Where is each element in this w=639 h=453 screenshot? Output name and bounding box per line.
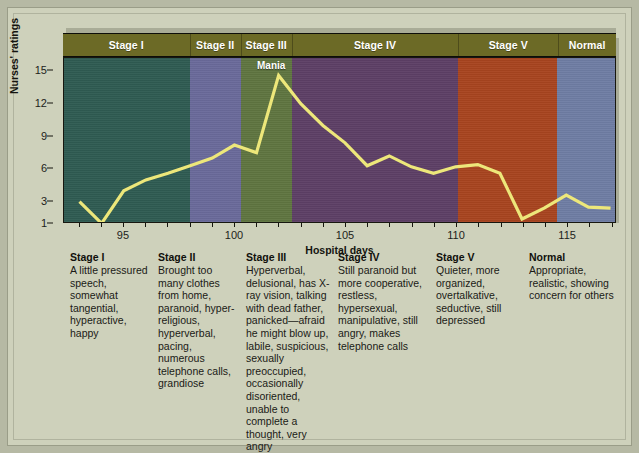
x-tick-mark-111 xyxy=(478,223,479,227)
x-tick-mark-97 xyxy=(167,223,168,227)
x-tick-mark-98 xyxy=(190,223,191,227)
x-tick-mark-103 xyxy=(301,223,302,227)
stage-header-1: Stage I xyxy=(63,34,190,56)
x-tick-mark-112 xyxy=(501,223,502,227)
y-tick-label-12: 12 xyxy=(35,97,47,109)
x-tick-label-115: 115 xyxy=(558,229,576,241)
mania-annotation: Mania xyxy=(257,60,285,71)
caption-column-3: Stage IIIHyperverbal, delusional, has X-… xyxy=(246,251,338,453)
caption-body-5: Quieter, more organized, overtalkative, … xyxy=(436,264,521,327)
figure-page: Stage IStage IIStage IIIStage IVStage VN… xyxy=(0,0,639,453)
caption-body-6: Appropriate, realistic, showing concern … xyxy=(529,264,614,302)
x-tick-mark-106 xyxy=(367,223,368,227)
x-axis: Hospital days 95100105110115 xyxy=(63,223,616,253)
x-tick-mark-101 xyxy=(256,223,257,227)
stage-header-3: Stage III xyxy=(241,34,292,56)
x-tick-mark-109 xyxy=(434,223,435,227)
x-tick-mark-116 xyxy=(589,223,590,227)
caption-body-1: A little pressured speech, somewhat tang… xyxy=(70,264,150,340)
x-tick-mark-100 xyxy=(234,223,235,227)
x-tick-mark-113 xyxy=(523,223,524,227)
stage-captions: Stage IA little pressured speech, somewh… xyxy=(70,251,622,453)
caption-column-4: Stage IVStill paranoid but more cooperat… xyxy=(338,251,436,453)
stage-header-5: Stage V xyxy=(458,34,558,56)
x-tick-mark-114 xyxy=(545,223,546,227)
x-tick-mark-107 xyxy=(389,223,390,227)
x-tick-mark-96 xyxy=(145,223,146,227)
y-tick-label-15: 15 xyxy=(35,64,47,76)
x-tick-mark-95 xyxy=(123,223,124,227)
x-tick-mark-117 xyxy=(612,223,613,227)
caption-title-5: Stage V xyxy=(436,251,521,263)
y-tick-mark-1 xyxy=(47,223,53,224)
caption-title-2: Stage II xyxy=(158,251,238,263)
y-tick-mark-12 xyxy=(47,102,53,103)
caption-column-2: Stage IIBrought too many clothes from ho… xyxy=(158,251,246,453)
x-tick-mark-93 xyxy=(79,223,80,227)
caption-title-1: Stage I xyxy=(70,251,150,263)
caption-body-2: Brought too many clothes from home, para… xyxy=(158,264,238,390)
x-tick-mark-110 xyxy=(456,223,457,227)
x-tick-label-100: 100 xyxy=(225,229,243,241)
x-tick-mark-94 xyxy=(101,223,102,227)
x-tick-label-110: 110 xyxy=(447,229,465,241)
caption-body-4: Still paranoid but more cooperative, res… xyxy=(338,264,428,352)
caption-title-4: Stage IV xyxy=(338,251,428,263)
caption-column-1: Stage IA little pressured speech, somewh… xyxy=(70,251,158,453)
caption-column-6: NormalAppropriate, realistic, showing co… xyxy=(529,251,622,453)
nurses-rating-line xyxy=(64,58,615,223)
stage-header-bar: Stage IStage IIStage IIIStage IVStage VN… xyxy=(63,33,616,57)
x-tick-mark-99 xyxy=(212,223,213,227)
x-tick-mark-105 xyxy=(345,223,346,227)
plot-area: Mania xyxy=(63,57,616,223)
x-tick-label-95: 95 xyxy=(117,229,129,241)
y-tick-mark-6 xyxy=(47,168,53,169)
caption-body-3: Hyperverbal, delusional, has X-ray visio… xyxy=(246,264,330,453)
y-tick-mark-15 xyxy=(47,70,53,71)
y-axis: 13691215 xyxy=(23,57,53,223)
stage-header-6: Normal xyxy=(558,34,616,56)
caption-column-5: Stage VQuieter, more organized, overtalk… xyxy=(436,251,529,453)
x-tick-label-105: 105 xyxy=(336,229,354,241)
y-tick-mark-9 xyxy=(47,135,53,136)
stage-header-2: Stage II xyxy=(190,34,241,56)
x-tick-mark-102 xyxy=(278,223,279,227)
caption-title-3: Stage III xyxy=(246,251,330,263)
y-tick-mark-3 xyxy=(47,201,53,202)
x-tick-mark-115 xyxy=(567,223,568,227)
stage-header-4: Stage IV xyxy=(292,34,459,56)
paper-background: Stage IStage IIStage IIIStage IVStage VN… xyxy=(7,7,632,446)
caption-title-6: Normal xyxy=(529,251,614,263)
x-tick-mark-104 xyxy=(323,223,324,227)
x-tick-mark-108 xyxy=(412,223,413,227)
y-axis-title: Nurses' ratings xyxy=(8,18,20,94)
chart-figure: Stage IStage IIStage IIIStage IVStage VN… xyxy=(56,28,616,238)
